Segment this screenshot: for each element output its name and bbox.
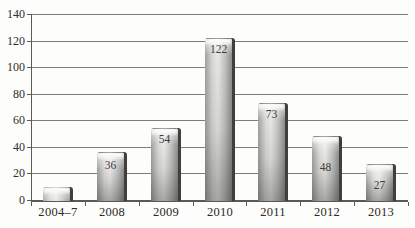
bar-2010: 122 (205, 38, 232, 201)
x-category-label: 2013 (354, 205, 408, 220)
y-axis-tick-label: 100 (0, 60, 25, 74)
bar-2012: 48 (312, 136, 339, 201)
x-category-label: 2011 (246, 205, 300, 220)
x-category-label: 2008 (85, 205, 139, 220)
bar-value-label: 73 (258, 108, 285, 120)
bar-value-label: 27 (366, 179, 393, 191)
bar-chart-figure: 0204060801001201402004–73620085420091222… (0, 0, 415, 228)
x-category-label: 2012 (300, 205, 354, 220)
y-gridline (31, 14, 408, 15)
bar-value-label: 48 (312, 161, 339, 173)
y-axis-tick-label: 0 (0, 193, 25, 207)
y-axis-tick-label: 40 (0, 140, 25, 154)
y-axis-line (31, 14, 32, 200)
bar-2009: 54 (151, 128, 178, 201)
bar-2004–7 (43, 187, 70, 201)
y-axis-tick-label: 20 (0, 166, 25, 180)
x-category-label: 2010 (193, 205, 247, 220)
y-axis-tick-label: 140 (0, 7, 25, 21)
bar-2013: 27 (366, 164, 393, 201)
y-axis-tick-label: 60 (0, 113, 25, 127)
bar-value-label: 36 (97, 159, 124, 171)
bar-value-label: 122 (205, 43, 232, 55)
x-category-label: 2009 (139, 205, 193, 220)
y-axis-tick-label: 120 (0, 34, 25, 48)
x-axis-tick (408, 202, 409, 206)
bar-2011: 73 (258, 103, 285, 201)
x-category-label: 2004–7 (31, 205, 85, 220)
bar-value-label: 54 (151, 133, 178, 145)
bar-2008: 36 (97, 152, 124, 201)
y-axis-tick-label: 80 (0, 87, 25, 101)
